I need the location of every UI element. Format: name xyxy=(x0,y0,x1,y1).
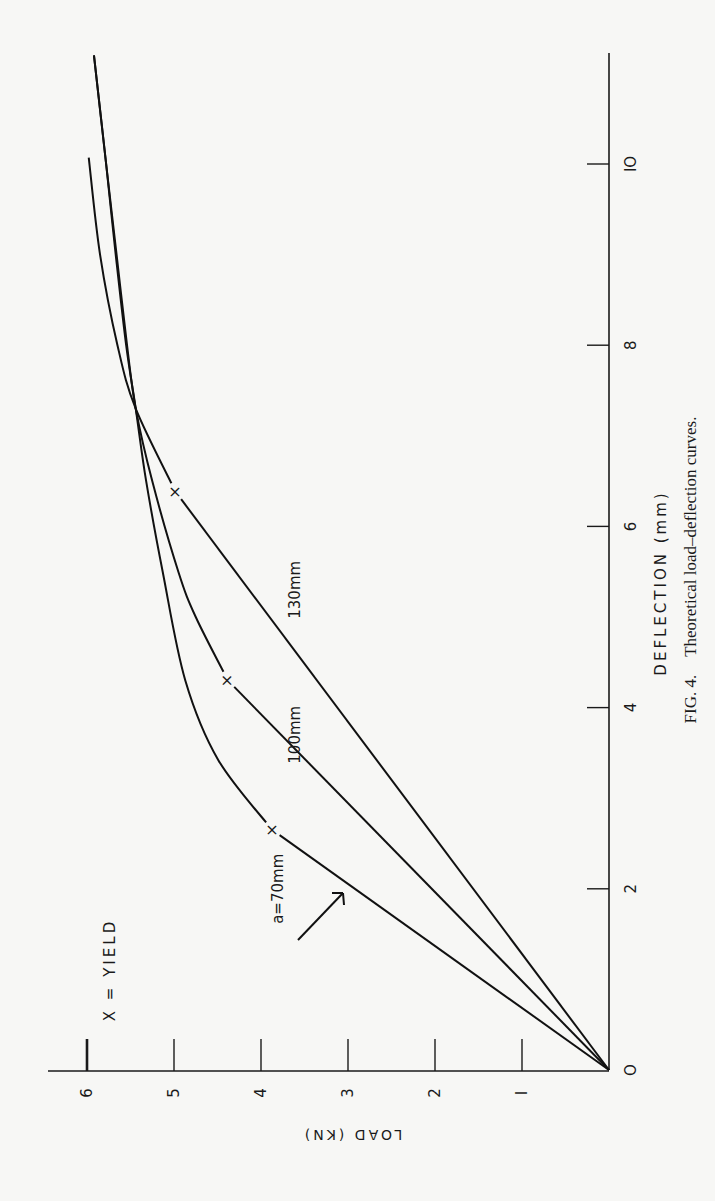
curve-label: 130mm xyxy=(286,561,304,619)
curve-a70mm-plastic xyxy=(94,55,272,830)
x-axis-title: DEFLECTION (mm) xyxy=(652,490,670,675)
caption-text: Theoretical load–deflection curves. xyxy=(681,417,700,657)
deflection-tick-label: 4 xyxy=(622,703,640,713)
curve-a70mm-elastic xyxy=(280,835,609,1070)
svg-text:FIG. 4. Theoretical load: FIG. 4. Theoretical load–deflection curv… xyxy=(681,417,700,724)
curve-100mm-plastic xyxy=(94,55,228,680)
curve-label: 100mm xyxy=(286,706,304,764)
yield-marker: × xyxy=(165,485,184,498)
curve-130mm-plastic xyxy=(89,158,176,492)
deflection-tick-label: 2 xyxy=(622,884,640,894)
yield-marker: × xyxy=(262,823,281,836)
label-arrow xyxy=(298,893,343,940)
curve-labels: a=70mm100mm130mm xyxy=(269,561,344,940)
load-tick-label: 5 xyxy=(165,1088,183,1098)
figure-caption: FIG. 4. Theoretical load–deflection curv… xyxy=(681,417,700,724)
deflection-tick-label: IO xyxy=(622,156,640,172)
caption-prefix: FIG. 4. xyxy=(681,675,700,724)
load-tick-label: I xyxy=(513,1091,531,1095)
deflection-tick-label: 8 xyxy=(622,340,640,350)
legend-yield: X = YIELD xyxy=(101,919,119,1021)
curve-label: a=70mm xyxy=(269,854,287,924)
y-axis-title: LOAD (KN) xyxy=(302,1127,402,1143)
deflection-tick-label: 6 xyxy=(622,522,640,532)
load-tick-label: 2 xyxy=(426,1088,444,1098)
load-ticks: I23456 xyxy=(78,1039,531,1098)
deflection-tick-label: O xyxy=(622,1064,640,1076)
load-deflection-chart: O2468IO I23456 ××× a=70mm100mm130mm DEFL… xyxy=(0,0,715,1201)
curve-130mm-elastic xyxy=(181,499,609,1070)
load-tick-label: 4 xyxy=(252,1088,270,1098)
curves: ××× xyxy=(89,55,609,1070)
deflection-ticks: O2468IO xyxy=(587,156,640,1076)
load-tick-label: 6 xyxy=(78,1088,96,1098)
yield-marker: × xyxy=(217,674,236,687)
load-tick-label: 3 xyxy=(339,1088,357,1098)
axes: O2468IO I23456 xyxy=(48,53,640,1098)
